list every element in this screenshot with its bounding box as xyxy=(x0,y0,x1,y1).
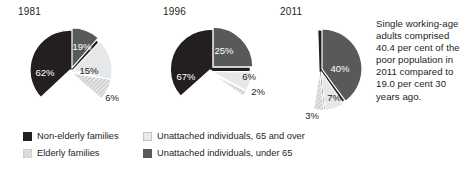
pie-label-2011-non-elderly: 50% xyxy=(288,66,308,77)
legend-label-elderly-families: Elderly families xyxy=(37,149,100,158)
legend-column-left: Non-elderly families Elderly families xyxy=(23,129,119,163)
solid-gray-swatch-icon xyxy=(143,149,152,158)
pie-label-1996-unattached-65plus: 6% xyxy=(242,71,256,82)
chart-title-2011: 2011 xyxy=(280,6,302,17)
legend-label-non-elderly-families: Non-elderly families xyxy=(37,132,119,141)
pie-slice-1996-non-elderly xyxy=(157,15,265,122)
pie-label-1981-non-elderly: 62% xyxy=(35,67,55,78)
solid-dark-swatch-icon xyxy=(23,132,32,141)
pie-svg-1996: 67% 25% 6% 2% xyxy=(160,22,280,118)
pie-label-1996-elderly: 2% xyxy=(251,86,265,97)
legend-column-right: Unattached individuals, 65 and over Unat… xyxy=(143,129,305,163)
pie-chart-1996: 67% 25% 6% 2% xyxy=(160,22,280,118)
solid-verylight-swatch-icon xyxy=(143,132,152,141)
pie-label-2011-unattached-under65: 40% xyxy=(330,63,350,74)
pie-label-1996-non-elderly: 67% xyxy=(176,71,196,82)
chart-title-1996: 1996 xyxy=(163,6,186,17)
pie-chart-figure: 1981 62% 19% 15% 6% 1996 xyxy=(0,0,469,173)
pie-svg-2011: 50% 40% 7% 3% xyxy=(272,22,392,122)
pie-svg-1981: 62% 19% 15% 6% xyxy=(18,22,138,118)
pie-label-1981-unattached-65plus: 15% xyxy=(79,65,99,76)
pie-label-1981-elderly: 6% xyxy=(105,92,119,103)
pie-chart-2011: 50% 40% 7% 3% xyxy=(272,22,392,122)
pie-label-2011-unattached-65plus: 7% xyxy=(327,92,341,103)
hatched-light-swatch-icon xyxy=(23,149,32,158)
legend-item-unattached-under-65: Unattached individuals, under 65 xyxy=(143,146,305,161)
pie-label-1981-unattached-under65: 19% xyxy=(72,41,92,52)
legend-item-non-elderly-families: Non-elderly families xyxy=(23,129,119,144)
pie-label-2011-elderly: 3% xyxy=(305,110,319,121)
callout-text: Single working-age adults comprised 40.4… xyxy=(376,18,469,103)
legend-item-unattached-65-and-over: Unattached individuals, 65 and over xyxy=(143,129,305,144)
chart-title-1981: 1981 xyxy=(18,6,41,17)
pie-chart-1981: 62% 19% 15% 6% xyxy=(18,22,138,118)
legend-label-unattached-65-and-over: Unattached individuals, 65 and over xyxy=(157,132,305,141)
pie-label-1996-unattached-under65: 25% xyxy=(214,45,234,56)
legend-label-unattached-under-65: Unattached individuals, under 65 xyxy=(157,149,292,158)
legend-item-elderly-families: Elderly families xyxy=(23,146,119,161)
